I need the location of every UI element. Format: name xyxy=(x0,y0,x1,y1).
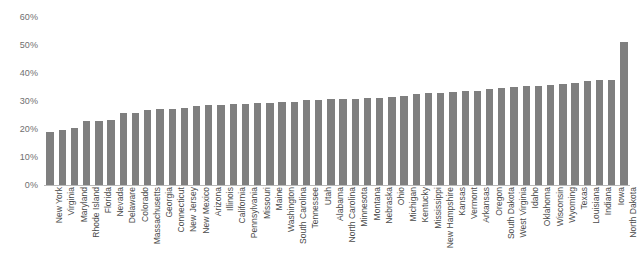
bar xyxy=(46,17,53,185)
y-axis-tick-label: 20% xyxy=(20,124,38,134)
bar xyxy=(559,17,566,185)
bar-fill xyxy=(620,42,627,185)
bar xyxy=(449,17,456,185)
y-axis-tick-label: 0% xyxy=(25,180,38,190)
bar xyxy=(242,17,249,185)
bar xyxy=(596,17,603,185)
bar-fill xyxy=(352,99,359,185)
x-axis-tick: Delaware xyxy=(117,187,129,280)
bar xyxy=(462,17,469,185)
x-axis-tick: Virginia xyxy=(56,187,68,280)
bar-fill xyxy=(364,98,371,185)
x-axis-tick: New Mexico xyxy=(191,187,203,280)
x-axis-tick: North Carolina xyxy=(337,187,349,280)
bar xyxy=(230,17,237,185)
x-axis-tick: Kansas xyxy=(447,187,459,280)
x-axis-tick: Kentucky xyxy=(410,187,422,280)
bar xyxy=(413,17,420,185)
bar-fill xyxy=(156,109,163,185)
x-axis-tick-label: North Dakota xyxy=(627,187,637,238)
bar-fill xyxy=(388,97,395,185)
bar-fill xyxy=(266,103,273,185)
bar xyxy=(327,17,334,185)
bar-fill xyxy=(376,98,383,185)
bar-fill xyxy=(205,105,212,185)
bar-fill xyxy=(535,86,542,185)
bar-fill xyxy=(315,100,322,185)
bar xyxy=(303,17,310,185)
x-axis-tick: Texas xyxy=(569,187,581,280)
bar xyxy=(571,17,578,185)
bar-fill xyxy=(71,128,78,185)
bar-fill xyxy=(547,85,554,185)
bar xyxy=(474,17,481,185)
x-axis-tick: Maryland xyxy=(68,187,80,280)
x-axis-tick: North Dakota xyxy=(618,187,630,280)
x-axis-tick: Illinois xyxy=(215,187,227,280)
bar-fill xyxy=(107,120,114,185)
bar xyxy=(193,17,200,185)
x-axis-tick: Missouri xyxy=(252,187,264,280)
bar xyxy=(205,17,212,185)
bar xyxy=(339,17,346,185)
bar-fill xyxy=(242,104,249,185)
y-axis-tick-label: 10% xyxy=(20,152,38,162)
x-axis-tick: Arkansas xyxy=(471,187,483,280)
x-axis-line xyxy=(44,185,630,186)
x-axis-tick: Alabama xyxy=(325,187,337,280)
x-axis-tick: Nebraska xyxy=(374,187,386,280)
bar xyxy=(169,17,176,185)
bar-fill xyxy=(413,94,420,185)
bar-fill xyxy=(83,121,90,185)
bar xyxy=(608,17,615,185)
bar-fill xyxy=(217,105,224,185)
bar xyxy=(181,17,188,185)
y-axis: 0%10%20%30%40%50%60% xyxy=(0,0,44,280)
x-axis-tick: Arizona xyxy=(203,187,215,280)
x-axis-tick: Maine xyxy=(264,187,276,280)
bar xyxy=(291,17,298,185)
bar xyxy=(156,17,163,185)
bar-fill xyxy=(608,80,615,185)
bar xyxy=(425,17,432,185)
bar xyxy=(437,17,444,185)
x-axis-tick: Massachusetts xyxy=(142,187,154,280)
x-axis-tick: Utah xyxy=(313,187,325,280)
bar xyxy=(107,17,114,185)
x-axis-tick: Iowa xyxy=(606,187,618,280)
bar-fill xyxy=(278,102,285,185)
bar xyxy=(120,17,127,185)
bar xyxy=(59,17,66,185)
x-axis-tick: Colorado xyxy=(129,187,141,280)
x-axis-tick: Indiana xyxy=(593,187,605,280)
x-axis-tick: New Jersey xyxy=(178,187,190,280)
bar xyxy=(132,17,139,185)
bar-fill xyxy=(571,83,578,185)
bar-fill xyxy=(254,103,261,185)
x-axis-tick: Rhode Island xyxy=(81,187,93,280)
bar xyxy=(217,17,224,185)
bar-fill xyxy=(339,99,346,185)
bar xyxy=(486,17,493,185)
bar-fill xyxy=(498,88,505,185)
bar xyxy=(498,17,505,185)
bar-fill xyxy=(132,113,139,185)
bar-fill xyxy=(95,121,102,185)
bar-fill xyxy=(169,109,176,185)
bar-fill xyxy=(291,102,298,185)
x-axis-tick: Wisconsin xyxy=(545,187,557,280)
bar xyxy=(523,17,530,185)
x-axis-tick: South Carolina xyxy=(288,187,300,280)
bar-fill xyxy=(449,92,456,185)
x-axis-tick: Florida xyxy=(93,187,105,280)
x-axis-tick: Minnesota xyxy=(349,187,361,280)
bar-fill xyxy=(230,104,237,185)
bar xyxy=(620,17,627,185)
bar-fill xyxy=(181,108,188,185)
x-axis-tick: Louisiana xyxy=(581,187,593,280)
x-axis-tick: Vermont xyxy=(459,187,471,280)
bar-fill xyxy=(400,96,407,185)
x-axis-tick: Tennessee xyxy=(300,187,312,280)
bar xyxy=(510,17,517,185)
